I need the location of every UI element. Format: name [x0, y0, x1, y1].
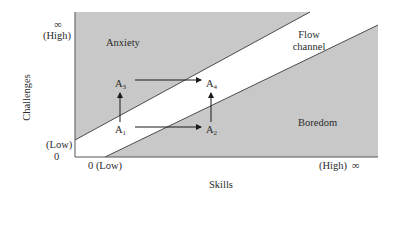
y-min-value: 0	[54, 151, 59, 163]
x-axis-title: Skills	[209, 179, 233, 191]
anxiety-label: Anxiety	[106, 37, 140, 49]
x-max-symbol: ∞	[352, 160, 360, 172]
point-a1: A1	[115, 124, 126, 139]
x-min-label: 0 (Low)	[88, 160, 122, 172]
point-a3-letter: A	[115, 78, 123, 89]
flow-label-line1: Flow	[285, 29, 333, 41]
point-a3: A3	[115, 78, 126, 93]
point-a2-sub: 2	[214, 129, 218, 137]
boredom-label: Boredom	[298, 117, 337, 129]
point-a1-letter: A	[115, 124, 123, 135]
flow-label-line2: channel	[285, 41, 333, 53]
point-a4-letter: A	[206, 78, 214, 89]
point-a1-sub: 1	[123, 129, 127, 137]
point-a4: A4	[206, 78, 217, 93]
y-max-label: (High)	[43, 30, 71, 42]
point-a2-letter: A	[206, 124, 214, 135]
flow-channel-label: Flow channel	[285, 29, 333, 53]
y-axis-title: Challenges	[21, 68, 32, 128]
point-a2: A2	[206, 124, 217, 139]
point-a3-sub: 3	[123, 83, 127, 91]
y-min-label: (Low)	[46, 139, 72, 151]
x-max-label: (High)	[319, 160, 347, 172]
point-a4-sub: 4	[214, 83, 218, 91]
